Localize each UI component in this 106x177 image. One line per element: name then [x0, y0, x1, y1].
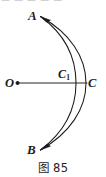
point-label-c1: C1 — [58, 68, 70, 80]
point-label-a-text: A — [28, 8, 37, 23]
point-label-a: A — [28, 9, 37, 22]
point-label-b-text: B — [27, 142, 36, 157]
point-label-c1-subscript: 1 — [66, 73, 70, 82]
point-label-b: B — [27, 143, 36, 156]
point-label-c-text: C — [88, 76, 96, 90]
center-dot-o-marker — [16, 81, 20, 85]
point-label-c1-text: C — [58, 67, 66, 81]
point-label-o-text: O — [5, 76, 14, 90]
point-label-o: O — [5, 77, 14, 90]
figure-85-diagram: — — — — — ’ A B O C C1 图 85 — [0, 0, 106, 177]
figure-caption: 图 85 — [0, 159, 106, 175]
point-label-c: C — [88, 77, 96, 90]
